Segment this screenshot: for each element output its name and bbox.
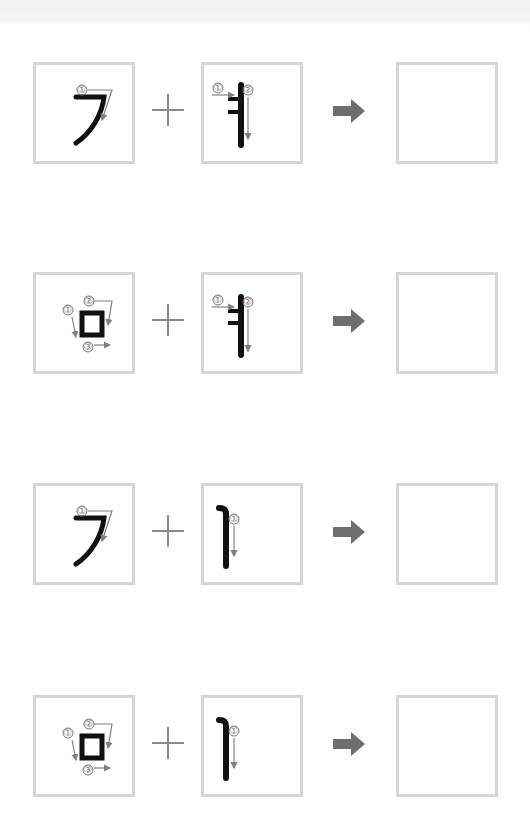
svg-text:②: ②: [244, 296, 253, 307]
plus-operator-icon: [152, 515, 184, 547]
i-stroke-diagram-icon: ①: [204, 698, 300, 794]
svg-text:①: ①: [230, 725, 239, 736]
practice-row-3: ㄱ ① ㅣ ①: [0, 483, 530, 585]
practice-row-2: ㅁ ① ② ③ ㅕ ① ②: [0, 272, 530, 374]
svg-text:①: ①: [78, 84, 87, 95]
i-stroke-diagram-icon: ①: [204, 486, 300, 582]
answer-box[interactable]: [396, 272, 498, 374]
vowel-box: ㅕ ① ②: [201, 62, 303, 164]
practice-row-4: ㅁ ① ② ③ ㅣ ①: [0, 695, 530, 797]
right-arrow-icon: [333, 732, 365, 756]
plus-operator-icon: [152, 727, 184, 759]
plus-operator-icon: [152, 94, 184, 126]
svg-text:②: ②: [85, 295, 94, 306]
consonant-box: ㅁ ① ② ③: [33, 695, 135, 797]
vowel-box: ㅕ ① ②: [201, 272, 303, 374]
svg-text:①: ①: [214, 294, 223, 305]
giyeok-stroke-diagram-icon: ①: [36, 486, 132, 582]
practice-row-1: ㄱ ① ㅕ ① ②: [0, 62, 530, 164]
svg-text:③: ③: [84, 764, 93, 775]
svg-text:②: ②: [244, 84, 253, 95]
vowel-box: ㅣ ①: [201, 483, 303, 585]
mieum-stroke-diagram-icon: ① ② ③: [36, 698, 132, 794]
svg-text:①: ①: [64, 304, 73, 315]
consonant-box: ㄱ ①: [33, 62, 135, 164]
svg-text:③: ③: [84, 341, 93, 352]
giyeok-stroke-diagram-icon: ①: [36, 65, 132, 161]
right-arrow-icon: [333, 520, 365, 544]
consonant-box: ㅁ ① ② ③: [33, 272, 135, 374]
svg-text:①: ①: [78, 505, 87, 516]
right-arrow-icon: [333, 309, 365, 333]
mieum-stroke-diagram-icon: ① ② ③: [36, 275, 132, 371]
svg-text:①: ①: [214, 82, 223, 93]
consonant-box: ㄱ ①: [33, 483, 135, 585]
yeo-stroke-diagram-icon: ① ②: [204, 65, 300, 161]
vowel-box: ㅣ ①: [201, 695, 303, 797]
svg-text:①: ①: [230, 513, 239, 524]
plus-operator-icon: [152, 304, 184, 336]
svg-text:②: ②: [85, 718, 94, 729]
scan-top-band: [0, 0, 530, 26]
right-arrow-icon: [333, 99, 365, 123]
svg-text:①: ①: [64, 727, 73, 738]
answer-box[interactable]: [396, 62, 498, 164]
answer-box[interactable]: [396, 483, 498, 585]
yeo-stroke-diagram-icon: ① ②: [204, 275, 300, 371]
answer-box[interactable]: [396, 695, 498, 797]
